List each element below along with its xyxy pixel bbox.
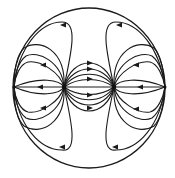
left-edge-point	[13, 86, 16, 89]
central-arrows	[87, 61, 93, 111]
arrow-right-icon	[87, 106, 93, 111]
outer-arrows	[37, 23, 143, 150]
arrow-right-icon	[87, 93, 93, 98]
arrow-left-icon	[116, 23, 122, 28]
right-pole	[112, 85, 116, 89]
arrow-right-icon	[87, 67, 93, 72]
field-line-diagram	[0, 0, 175, 178]
arrow-left-icon	[59, 145, 65, 150]
arrow-left-icon	[137, 85, 143, 90]
arrow-left-icon	[133, 107, 139, 112]
arrow-right-icon	[87, 61, 93, 66]
arrow-left-icon	[37, 85, 43, 90]
arrow-left-icon	[133, 63, 139, 68]
arrow-left-icon	[60, 23, 66, 28]
right-edge-point	[164, 86, 167, 89]
arrow-left-icon	[112, 145, 118, 150]
left-pole	[62, 85, 66, 89]
arrow-right-icon	[87, 77, 93, 82]
